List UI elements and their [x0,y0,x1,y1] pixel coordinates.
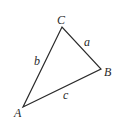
side-label-b: b [34,54,40,68]
triangle-diagram: A B C a b c [0,0,119,136]
vertex-label-b: B [104,65,112,79]
side-label-c: c [63,88,69,102]
vertex-label-c: C [57,13,66,27]
side-label-a: a [84,35,90,49]
vertex-label-a: A [13,106,22,120]
